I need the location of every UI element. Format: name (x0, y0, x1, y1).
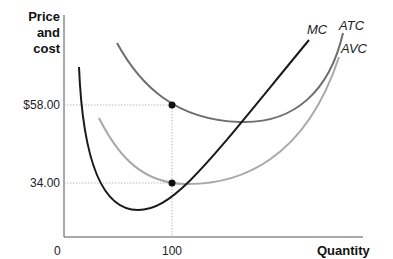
y-axis-label-line2: and (0, 25, 60, 41)
y-tick-34: 34.00 (0, 176, 60, 190)
y-axis-label-line3: cost (0, 41, 60, 57)
avc-point (169, 180, 176, 187)
origin-label: 0 (54, 244, 61, 258)
atc-point (169, 102, 176, 109)
atc-curve (117, 33, 343, 122)
x-axis-label: Quantity (317, 243, 370, 258)
atc-label: ATC (339, 18, 364, 33)
cost-curves-chart: Price and cost $58.00 34.00 0 100 Quanti… (0, 0, 393, 259)
y-axis-label-line1: Price (0, 9, 60, 25)
y-tick-58: $58.00 (0, 98, 60, 112)
x-tick-100: 100 (162, 244, 182, 258)
avc-label: AVC (341, 41, 367, 56)
mc-label: MC (307, 22, 327, 37)
y-axis-label: Price and cost (0, 9, 60, 57)
